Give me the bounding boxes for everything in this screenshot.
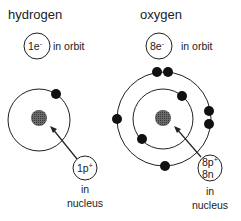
hydrogen-nucleus-label-1: in bbox=[81, 183, 89, 195]
oxygen-electron bbox=[177, 91, 187, 101]
oxygen-electron-count: 8e- bbox=[150, 40, 165, 52]
atom-diagram: hydrogen 1e- in orbit 1p+ in nucleus oxy… bbox=[0, 0, 241, 221]
hydrogen-title: hydrogen bbox=[8, 7, 62, 22]
hydrogen-nucleus bbox=[31, 110, 47, 126]
oxygen-electron bbox=[112, 114, 122, 124]
hydrogen-orbit-label: in orbit bbox=[53, 40, 85, 52]
oxygen-nucleus-label-2: nucleus bbox=[192, 199, 228, 211]
oxygen-nucleus bbox=[155, 110, 171, 126]
oxygen-electron bbox=[204, 119, 214, 129]
oxygen-orbit-badge: 8e- bbox=[146, 33, 172, 59]
oxygen-electron bbox=[137, 134, 147, 144]
hydrogen-nucleus-label-2: nucleus bbox=[67, 197, 103, 209]
oxygen-title: oxygen bbox=[140, 7, 182, 22]
hydrogen-arrow bbox=[52, 128, 77, 159]
oxygen-orbit-label: in orbit bbox=[181, 40, 213, 52]
oxygen-neutron-count: 8n bbox=[202, 168, 214, 180]
oxygen-nucleus-badge: 8p+ 8n bbox=[198, 155, 222, 181]
oxygen-electron bbox=[152, 67, 162, 77]
hydrogen-nucleus-badge: 1p+ bbox=[73, 156, 97, 180]
oxygen-nucleus-label-1: in bbox=[206, 185, 214, 197]
oxygen-electron bbox=[160, 161, 170, 171]
hydrogen-group: hydrogen 1e- in orbit 1p+ in nucleus bbox=[8, 7, 103, 209]
oxygen-group: oxygen 8e- in orbit 8p+ 8n in bbox=[112, 7, 228, 211]
hydrogen-electron bbox=[51, 89, 61, 99]
oxygen-electron bbox=[204, 106, 214, 116]
hydrogen-orbit-badge: 1e- bbox=[24, 33, 50, 59]
oxygen-arrow bbox=[176, 128, 201, 157]
oxygen-electron bbox=[163, 67, 173, 77]
hydrogen-electron-count: 1e- bbox=[28, 40, 43, 52]
